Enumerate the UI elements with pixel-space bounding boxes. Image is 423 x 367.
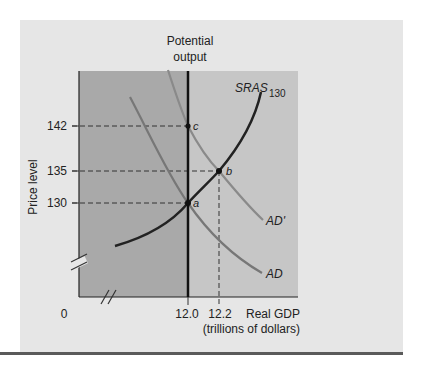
origin-label: 0 xyxy=(61,307,68,321)
label-point-b: b xyxy=(226,165,232,177)
label-point-c: c xyxy=(193,120,199,132)
y-axis-label: Price level xyxy=(26,159,40,214)
label-sras-sub: 130 xyxy=(269,88,286,99)
point-a xyxy=(185,200,191,206)
chart: c b a SRAS 130 AD' AD Potential output 1… xyxy=(0,0,423,367)
y-tick-135: 135 xyxy=(47,164,67,178)
potential-label-line1: Potential xyxy=(167,34,214,48)
label-ad-prime: AD' xyxy=(265,214,286,228)
label-ad: AD xyxy=(265,267,283,281)
label-point-a: a xyxy=(193,197,199,209)
label-sras: SRAS xyxy=(235,81,268,95)
x-tick-12-0: 12.0 xyxy=(175,307,199,321)
y-tick-142: 142 xyxy=(47,119,67,133)
y-tick-130: 130 xyxy=(47,196,67,210)
point-c xyxy=(185,123,190,128)
x-axis-sublabel: (trillions of dollars) xyxy=(203,322,300,336)
x-axis-label: Real GDP xyxy=(246,307,300,321)
plot-area-right xyxy=(188,71,298,297)
x-tick-12-2: 12.2 xyxy=(208,307,232,321)
point-b xyxy=(216,168,222,174)
potential-label-line2: output xyxy=(173,50,207,64)
